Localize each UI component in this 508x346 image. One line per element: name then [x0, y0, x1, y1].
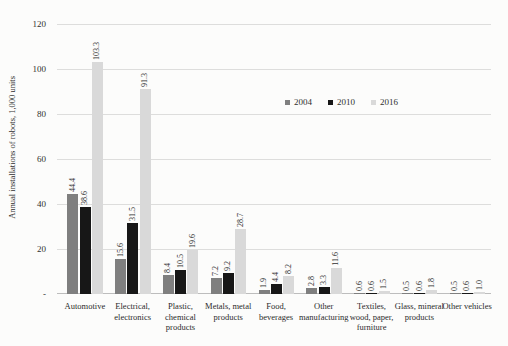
gridline [57, 159, 491, 160]
category-label: Electrical,electronics [114, 301, 151, 322]
bar [319, 287, 330, 294]
legend: 200420102016 [285, 97, 398, 107]
y-tick-label: 80 [16, 108, 46, 120]
bar-value-label: 0.5 [450, 281, 460, 291]
category-label-line: products [395, 312, 444, 323]
bar-value-label: 91.3 [140, 73, 150, 87]
bar [163, 275, 174, 294]
category-label-line: Food, [259, 301, 293, 312]
gridline [57, 204, 491, 205]
y-tick-label: 100 [16, 63, 46, 75]
bar [450, 293, 461, 294]
gridline [57, 69, 491, 70]
legend-label: 2004 [294, 97, 312, 107]
category-label: Othermanufacturing [299, 301, 349, 322]
bar-value-label: 0.6 [415, 281, 425, 291]
bar [402, 293, 413, 294]
bar [80, 207, 91, 294]
category-label-line: products [205, 312, 251, 323]
bar [115, 259, 126, 294]
bar-value-label: 0.6 [355, 281, 365, 291]
bar [67, 194, 78, 294]
y-tick-label: - [16, 288, 51, 300]
bar-value-label: 4.4 [271, 272, 281, 282]
y-tick-label: 60 [16, 153, 46, 165]
bar [235, 229, 246, 294]
legend-label: 2010 [337, 97, 355, 107]
bar-value-label: 10.5 [176, 254, 186, 268]
bar [271, 284, 282, 294]
bar [426, 290, 437, 294]
y-tick-label: 40 [16, 198, 46, 210]
bar-value-label: 0.5 [402, 281, 412, 291]
bar [414, 293, 425, 294]
category-label-line: wood, paper, [350, 312, 394, 323]
bar [223, 273, 234, 294]
legend-label: 2016 [380, 97, 398, 107]
bar [175, 270, 186, 294]
bar [283, 276, 294, 294]
legend-swatch [371, 100, 376, 105]
bar-value-label: 31.5 [128, 207, 138, 221]
category-label-line: Metals, metal [205, 301, 251, 312]
gridline [57, 24, 491, 25]
category-label: Food,beverages [259, 301, 293, 322]
category-label: Metals, metalproducts [205, 301, 251, 322]
legend-item: 2016 [371, 97, 398, 107]
bar [462, 293, 473, 294]
bar-value-label: 0.6 [462, 281, 472, 291]
bar-value-label: 44.4 [68, 178, 78, 192]
category-label-line: manufacturing [299, 312, 349, 323]
category-label-line: Other vehicles [442, 301, 491, 312]
legend-swatch [328, 100, 333, 105]
bar [354, 293, 365, 294]
bar-value-label: 9.2 [223, 261, 233, 271]
bar-value-label: 8.4 [163, 263, 173, 273]
category-label: Textiles,wood, paper,furniture [350, 301, 394, 333]
category-label-line: beverages [259, 312, 293, 323]
bar [211, 278, 222, 294]
bar-value-label: 19.6 [188, 234, 198, 248]
category-label-line: chemical [165, 312, 196, 323]
bar [379, 291, 390, 294]
bar-value-label: 2.8 [307, 276, 317, 286]
gridline [57, 114, 491, 115]
category-label-line: products [165, 322, 196, 333]
bar [259, 290, 270, 294]
bar [331, 268, 342, 294]
bar-value-label: 38.6 [80, 191, 90, 205]
bar-value-label: 1.0 [475, 280, 485, 290]
bar-value-label: 15.6 [116, 243, 126, 257]
bar [127, 223, 138, 294]
legend-item: 2010 [328, 97, 355, 107]
bar-chart: Annual installations of robots, 1,000 un… [0, 0, 508, 346]
y-tick-label: 120 [16, 18, 46, 30]
bar [366, 293, 377, 294]
bar [306, 288, 317, 294]
y-tick-label: 20 [16, 243, 46, 255]
bar-value-label: 0.6 [367, 281, 377, 291]
bar-value-label: 28.7 [236, 213, 246, 227]
category-label: Automotive [65, 301, 106, 312]
category-label-line: electronics [114, 312, 151, 323]
category-label-line: Automotive [65, 301, 106, 312]
legend-item: 2004 [285, 97, 312, 107]
bar-value-label: 11.6 [331, 252, 341, 266]
category-label-line: Glass, mineral [395, 301, 444, 312]
bar [474, 292, 485, 294]
bar [187, 250, 198, 294]
category-label-line: Electrical, [114, 301, 151, 312]
plot-area: 44.438.6103.315.631.591.38.410.519.67.29… [57, 24, 491, 294]
bar-value-label: 3.3 [319, 275, 329, 285]
legend-swatch [285, 100, 290, 105]
category-label: Other vehicles [442, 301, 491, 312]
category-label-line: Other [299, 301, 349, 312]
bar-value-label: 7.2 [211, 266, 221, 276]
category-label-line: Textiles, [350, 301, 394, 312]
category-label: Plastic,chemicalproducts [165, 301, 196, 333]
bar [92, 62, 103, 294]
bar-value-label: 1.5 [379, 279, 389, 289]
category-label: Glass, mineralproducts [395, 301, 444, 322]
bar-value-label: 8.2 [284, 264, 294, 274]
category-label-line: furniture [350, 322, 394, 333]
